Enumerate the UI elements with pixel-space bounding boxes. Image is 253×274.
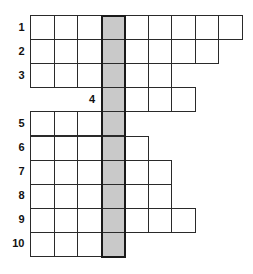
- answer-cell[interactable]: [30, 160, 55, 185]
- clue-number: 4: [75, 93, 95, 105]
- clue-number: 9: [5, 213, 25, 225]
- answer-cell[interactable]: [171, 87, 196, 112]
- answer-cell[interactable]: [54, 111, 79, 136]
- clue-number: 2: [5, 45, 25, 57]
- clue-number: 6: [5, 141, 25, 153]
- answer-cell[interactable]: [30, 39, 55, 64]
- answer-cell[interactable]: [124, 39, 149, 64]
- clue-number: 1: [5, 21, 25, 33]
- keyword-cell[interactable]: [101, 15, 126, 40]
- keyword-cell[interactable]: [101, 208, 126, 233]
- clue-number: 3: [5, 69, 25, 81]
- keyword-cell[interactable]: [101, 111, 126, 136]
- answer-cell[interactable]: [171, 208, 196, 233]
- clue-number: 10: [5, 237, 25, 249]
- answer-cell[interactable]: [124, 184, 149, 209]
- answer-cell[interactable]: [148, 160, 173, 185]
- answer-cell[interactable]: [195, 15, 220, 40]
- clue-number: 7: [5, 165, 25, 177]
- answer-cell[interactable]: [77, 136, 102, 161]
- answer-cell[interactable]: [77, 232, 102, 257]
- answer-cell[interactable]: [30, 63, 55, 88]
- answer-cell[interactable]: [30, 15, 55, 40]
- answer-cell[interactable]: [148, 87, 173, 112]
- keyword-cell[interactable]: [101, 87, 126, 112]
- answer-cell[interactable]: [54, 15, 79, 40]
- answer-cell[interactable]: [171, 15, 196, 40]
- answer-cell[interactable]: [54, 232, 79, 257]
- keyword-cell[interactable]: [101, 136, 126, 161]
- keyword-cell[interactable]: [101, 232, 126, 257]
- keyword-cell[interactable]: [101, 39, 126, 64]
- answer-cell[interactable]: [124, 87, 149, 112]
- answer-cell[interactable]: [77, 160, 102, 185]
- answer-cell[interactable]: [148, 208, 173, 233]
- answer-cell[interactable]: [124, 15, 149, 40]
- answer-cell[interactable]: [54, 160, 79, 185]
- answer-cell[interactable]: [77, 39, 102, 64]
- answer-cell[interactable]: [77, 15, 102, 40]
- answer-cell[interactable]: [30, 184, 55, 209]
- answer-cell[interactable]: [54, 39, 79, 64]
- answer-cell[interactable]: [30, 111, 55, 136]
- answer-cell[interactable]: [148, 184, 173, 209]
- answer-cell[interactable]: [77, 208, 102, 233]
- keyword-cell[interactable]: [101, 63, 126, 88]
- answer-cell[interactable]: [30, 232, 55, 257]
- answer-cell[interactable]: [124, 208, 149, 233]
- answer-cell[interactable]: [77, 63, 102, 88]
- answer-cell[interactable]: [148, 15, 173, 40]
- answer-cell[interactable]: [171, 39, 196, 64]
- answer-cell[interactable]: [124, 136, 149, 161]
- answer-cell[interactable]: [195, 39, 220, 64]
- answer-cell[interactable]: [30, 208, 55, 233]
- answer-cell[interactable]: [124, 160, 149, 185]
- answer-cell[interactable]: [77, 111, 102, 136]
- answer-cell[interactable]: [77, 184, 102, 209]
- answer-cell[interactable]: [54, 208, 79, 233]
- answer-cell[interactable]: [54, 184, 79, 209]
- answer-cell[interactable]: [148, 39, 173, 64]
- answer-cell[interactable]: [148, 63, 173, 88]
- answer-cell[interactable]: [54, 136, 79, 161]
- answer-cell[interactable]: [30, 136, 55, 161]
- answer-cell[interactable]: [54, 63, 79, 88]
- answer-cell[interactable]: [218, 15, 243, 40]
- crossword-grid: 12345678910: [0, 0, 253, 274]
- keyword-cell[interactable]: [101, 184, 126, 209]
- keyword-cell[interactable]: [101, 160, 126, 185]
- answer-cell[interactable]: [124, 63, 149, 88]
- clue-number: 8: [5, 189, 25, 201]
- clue-number: 5: [5, 117, 25, 129]
